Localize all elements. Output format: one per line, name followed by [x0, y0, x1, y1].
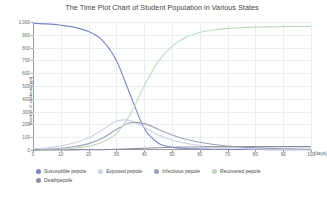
x-tick-label: 40	[142, 152, 147, 157]
x-tick-label: 90	[281, 152, 286, 157]
legend-label: Deathpepole	[44, 177, 72, 183]
y-tick-label: 900	[22, 32, 30, 37]
x-tick-mark	[172, 150, 173, 152]
x-tick-label: 100	[307, 152, 315, 157]
x-tick-label: 10	[58, 152, 63, 157]
legend-label: Susceptible pepole	[44, 168, 86, 174]
x-tick-mark	[116, 150, 117, 152]
y-tick-label: 400	[22, 96, 30, 101]
x-tick-label: 0	[32, 152, 35, 157]
legend-swatch-icon	[154, 169, 159, 174]
chart-title: The Time Plot Chart of Student Populatio…	[0, 3, 324, 12]
x-tick-mark	[89, 150, 90, 152]
x-tick-mark	[228, 150, 229, 152]
legend-swatch-icon	[212, 169, 217, 174]
plot-area: 01002003004005006007008009001,000 010203…	[33, 22, 311, 150]
legend-item[interactable]: Deathpepole	[36, 177, 72, 183]
legend-item[interactable]: Susceptible pepole	[36, 168, 86, 174]
x-tick-label: 20	[86, 152, 91, 157]
x-tick-label: 80	[253, 152, 258, 157]
legend-label: Infectious pepole	[162, 168, 200, 174]
x-tick-mark	[283, 150, 284, 152]
series-line	[33, 122, 311, 150]
y-tick-label: 700	[22, 58, 30, 63]
y-tick-label: 500	[22, 84, 30, 89]
gridline-vertical	[311, 22, 312, 150]
x-tick-mark	[311, 150, 312, 152]
legend-swatch-icon	[36, 178, 41, 183]
x-tick-mark	[255, 150, 256, 152]
series-line	[33, 23, 311, 149]
legend-label: Recovered pepole	[220, 168, 261, 174]
legend-label: Exposed pepole	[106, 168, 142, 174]
series-curves	[33, 22, 311, 150]
y-tick-label: 0	[27, 148, 30, 153]
legend-item[interactable]: Infectious pepole	[154, 168, 200, 174]
x-tick-mark	[200, 150, 201, 152]
chart-legend: Susceptible pepoleExposed pepoleInfectio…	[36, 168, 318, 186]
legend-item[interactable]: Exposed pepole	[98, 168, 142, 174]
x-tick-label: 60	[197, 152, 202, 157]
x-axis-label: (days)	[314, 151, 327, 156]
legend-item[interactable]: Recovered pepole	[212, 168, 261, 174]
legend-swatch-icon	[36, 169, 41, 174]
y-tick-label: 200	[22, 122, 30, 127]
y-tick-label: 800	[22, 45, 30, 50]
x-tick-label: 70	[225, 152, 230, 157]
y-tick-label: 1,000	[19, 20, 31, 25]
y-tick-label: 600	[22, 71, 30, 76]
x-tick-mark	[144, 150, 145, 152]
x-tick-label: 50	[169, 152, 174, 157]
x-tick-label: 30	[114, 152, 119, 157]
y-tick-label: 300	[22, 109, 30, 114]
y-tick-label: 100	[22, 135, 30, 140]
legend-swatch-icon	[98, 169, 103, 174]
series-line	[33, 26, 311, 150]
